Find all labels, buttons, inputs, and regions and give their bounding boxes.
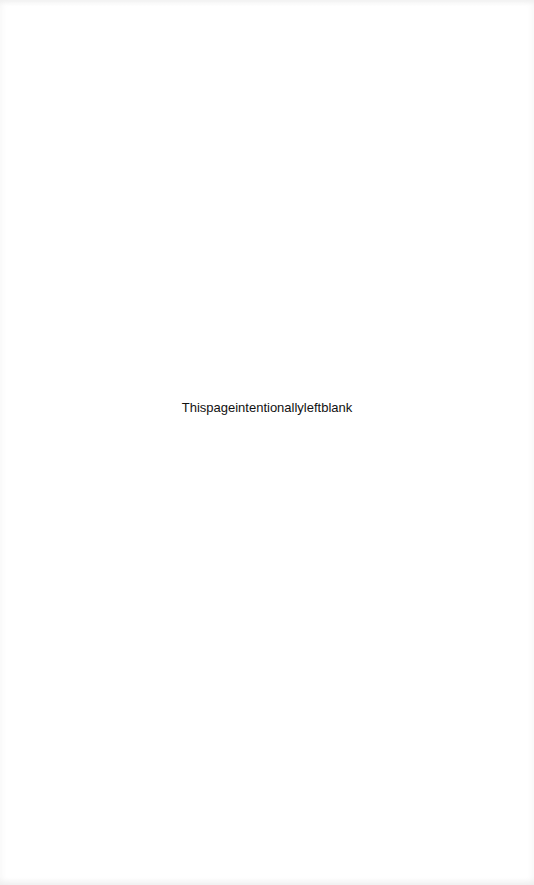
blank-page-notice: Thispageintentionallyleftblank xyxy=(0,400,534,416)
document-page: Thispageintentionallyleftblank xyxy=(0,0,534,885)
